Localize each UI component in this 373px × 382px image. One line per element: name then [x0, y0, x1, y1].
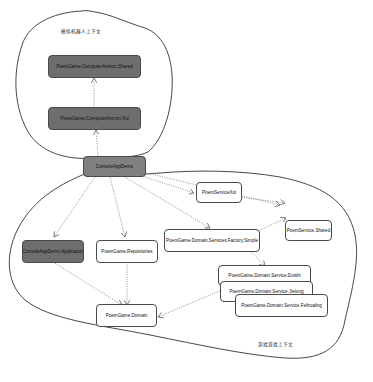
node-domain-service-feihualing[interactable]: PoemGame.Domain.Service.Feihualing: [235, 294, 328, 317]
edge-console-to-xiaoi: [96, 130, 98, 156]
node-poem-service-shared[interactable]: PoemService.Shared: [285, 220, 332, 241]
edge-consoleapp-to-domain: [53, 262, 122, 305]
node-label: ConsoleAppDemo: [96, 164, 133, 169]
node-console-app-demo[interactable]: ConsoleAppDemo: [83, 156, 146, 177]
node-label: ConsoleAppDemo.Application: [22, 249, 83, 254]
node-label: PoemGame.Repositories: [101, 249, 152, 254]
diagram-canvas: 模拟机器人上下文 游戏游戏上下文 PoemGame.ComputerAnmon.…: [0, 0, 373, 382]
node-label: PoemGame.Domain.Service.Duishi: [228, 273, 300, 278]
node-label: PoemService.Shared: [287, 228, 330, 233]
node-label: PoemGame.Domain.Services.Factory.Simple: [166, 238, 258, 243]
robot-context-label: 模拟机器人上下文: [61, 28, 101, 34]
node-poem-game-domain[interactable]: PoemGame.Domain: [96, 304, 157, 327]
node-console-app-demo-application[interactable]: ConsoleAppDemo.Application: [22, 240, 84, 263]
node-label: PoemGame.ComputerAnmon.Shared: [56, 64, 133, 69]
node-computer-anmon-shared[interactable]: PoemGame.ComputerAnmon.Shared: [48, 55, 141, 78]
edge-jielong-to-domain: [158, 290, 222, 317]
node-label: PoemGame.Domain.Service.Feihualing: [241, 303, 322, 308]
node-poem-service-xoi[interactable]: PoemServiceXoi: [196, 182, 242, 203]
game-context-label: 游戏游戏上下文: [258, 341, 293, 347]
node-poem-game-repositories[interactable]: PoemGame.Repositories: [96, 240, 158, 263]
node-label: PoemGame.ComputerAnmon.Xoi: [60, 116, 128, 121]
node-label: PoemGame.Domain: [106, 313, 148, 318]
node-label: PoemServiceXoi: [202, 190, 236, 195]
edge-factory-to-serviceshared: [260, 218, 286, 230]
node-domain-services-factory-simple[interactable]: PoemGame.Domain.Services.Factory.Simple: [164, 229, 260, 252]
edge-console-to-repositories: [110, 177, 125, 237]
node-computer-anmon-xoi[interactable]: PoemGame.ComputerAnmon.Xoi: [48, 107, 141, 130]
